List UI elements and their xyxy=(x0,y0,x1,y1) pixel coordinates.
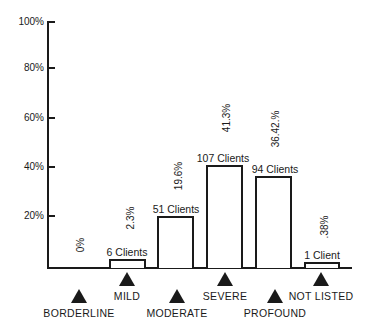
bar-moderate xyxy=(157,216,194,268)
y-tick-40 xyxy=(47,166,55,168)
count-label-not-listed: 1 Client xyxy=(304,249,340,261)
count-label-severe: 107 Clients xyxy=(197,152,250,164)
y-tick-label-80: 80% xyxy=(4,62,44,73)
percent-label-severe: 41.3% xyxy=(221,104,232,132)
bar-not-listed xyxy=(304,262,340,268)
triangle-marker-borderline-icon xyxy=(71,289,87,303)
category-label-severe: SEVERE xyxy=(203,290,247,302)
y-tick-100 xyxy=(47,21,55,23)
y-tick-label-100: 100% xyxy=(4,16,44,27)
bar-profound xyxy=(255,176,292,268)
y-tick-60 xyxy=(47,117,55,119)
category-label-profound: PROFOUND xyxy=(244,307,306,319)
count-label-mild: 6 Clients xyxy=(107,246,148,258)
triangle-marker-moderate-icon xyxy=(169,289,185,303)
y-tick-label-60: 60% xyxy=(4,112,44,123)
percent-label-profound: 36.42.% xyxy=(270,111,281,148)
bar-chart: 100% 80% 60% 40% 20% 0% 6 Clients 2.3% 5… xyxy=(0,0,375,336)
y-tick-label-40: 40% xyxy=(4,161,44,172)
category-label-moderate: MODERATE xyxy=(146,307,207,319)
bar-severe xyxy=(206,165,243,268)
category-label-not-listed: NOT LISTED xyxy=(289,290,354,302)
triangle-marker-severe-icon xyxy=(217,272,233,286)
triangle-marker-mild-icon xyxy=(119,272,135,286)
triangle-marker-not-listed-icon xyxy=(313,272,329,286)
percent-label-borderline: 0% xyxy=(75,238,86,252)
category-label-mild: MILD xyxy=(114,290,140,302)
percent-label-mild: 2.3% xyxy=(125,207,136,230)
y-tick-label-20: 20% xyxy=(4,210,44,221)
y-axis xyxy=(47,22,49,269)
count-label-profound: 94 Clients xyxy=(252,163,299,175)
y-tick-80 xyxy=(47,67,55,69)
y-tick-20 xyxy=(47,215,55,217)
bar-mild xyxy=(109,259,146,268)
count-label-moderate: 51 Clients xyxy=(153,203,200,215)
category-label-borderline: BORDERLINE xyxy=(43,307,114,319)
triangle-marker-profound-icon xyxy=(267,289,283,303)
percent-label-moderate: 19.6% xyxy=(173,162,184,190)
percent-label-not-listed: .38% xyxy=(319,216,330,239)
